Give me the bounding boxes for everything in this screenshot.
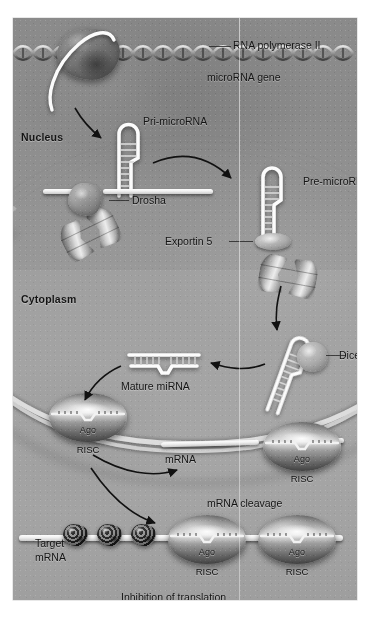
- figure-canvas: Ago RISC Ago RISC: [0, 0, 374, 621]
- diagram-plate: Ago RISC Ago RISC: [13, 18, 357, 600]
- scan-grain-overlay: [13, 18, 357, 600]
- scan-seam-line: [239, 18, 240, 600]
